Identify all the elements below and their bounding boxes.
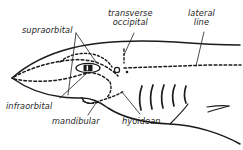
- shark-lateral-line-diagram: supraorbital transverse occipital latera…: [0, 0, 243, 150]
- leader-hyoidean: [122, 92, 140, 114]
- label-supraorbital: supraorbital: [22, 26, 73, 35]
- label-lateral-line: lateral line: [188, 9, 215, 28]
- pectoral-fin-edge: [170, 104, 188, 124]
- gill-slit-5: [185, 86, 187, 103]
- leader-supraorbital: [76, 33, 96, 62]
- leader-mandibular: [88, 103, 96, 115]
- gill-slit-3: [162, 85, 164, 108]
- spiracle: [114, 67, 119, 72]
- eye-highlight: [87, 66, 89, 71]
- lateral-line-canal: [124, 65, 241, 68]
- label-mandibular: mandibular: [52, 117, 100, 126]
- label-hyoidean: hyoidean: [122, 117, 161, 126]
- infraorbital-canal-rear-branch: [106, 82, 111, 98]
- label-infraorbital: infraorbital: [6, 102, 52, 111]
- leader-transverse-occipital: [124, 33, 134, 55]
- label-transverse-occipital: transverse occipital: [108, 9, 153, 28]
- gill-slit-1: [140, 86, 142, 110]
- leader-lateral-line: [196, 32, 204, 66]
- sensory-pore: [126, 71, 129, 74]
- infraorbital-canal: [14, 73, 110, 82]
- supraorbital-canal: [14, 60, 118, 77]
- leader-supraorbital-lower: [68, 33, 76, 95]
- gill-slit-4: [173, 85, 175, 106]
- gill-slit-2: [151, 85, 153, 109]
- ventral-body-outline: [82, 98, 240, 144]
